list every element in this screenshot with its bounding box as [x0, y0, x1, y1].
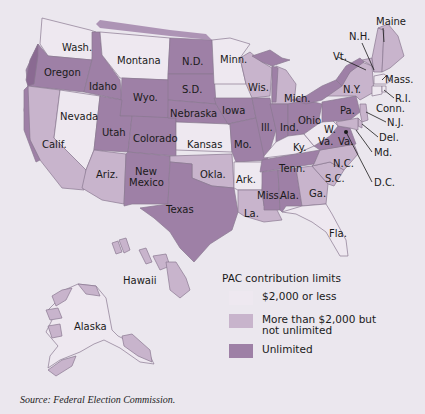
state-washington — [40, 18, 96, 60]
label-mo: Mo. — [234, 139, 252, 150]
label-ill: Ill. — [261, 122, 273, 133]
label-conn: Conn. — [376, 103, 405, 114]
label-ga: Ga. — [309, 188, 326, 199]
label-ariz: Ariz. — [96, 169, 118, 180]
legend-label-mid: More than $2,000 but not unlimited — [262, 314, 392, 336]
source-note: Source: Federal Election Commission. — [20, 394, 175, 405]
label-iowa: Iowa — [222, 105, 245, 116]
label-wva-1: W. — [324, 124, 336, 135]
label-maine: Maine — [376, 16, 406, 27]
legend-swatch-mid — [229, 314, 253, 328]
label-la: La. — [244, 208, 259, 219]
label-nc: N.C. — [333, 158, 354, 169]
label-tenn: Tenn. — [278, 163, 305, 174]
label-ala: Ala. — [280, 190, 299, 201]
label-hawaii: Hawaii — [123, 275, 157, 286]
label-ohio: Ohio — [298, 115, 321, 126]
label-del: Del. — [379, 132, 399, 143]
label-pa: Pa. — [340, 105, 355, 116]
label-ny: N.Y. — [343, 84, 361, 95]
label-sd: S.D. — [182, 84, 202, 95]
label-ark: Ark. — [236, 174, 256, 185]
label-ky: Ky. — [293, 142, 307, 153]
state-new-jersey — [360, 104, 368, 122]
legend-swatch-low — [229, 291, 253, 305]
label-new-mexico-2: Mexico — [129, 177, 164, 188]
label-utah: Utah — [102, 127, 126, 138]
label-kansas: Kansas — [187, 139, 222, 150]
label-new-mexico-1: New — [135, 166, 157, 177]
legend-swatch-unlimited — [229, 344, 253, 358]
label-nd: N.D. — [182, 56, 204, 67]
legend-item-low: $2,000 or less — [229, 291, 336, 305]
label-nj: N.J. — [387, 117, 404, 128]
label-nh: N.H. — [349, 31, 370, 42]
label-montana: Montana — [117, 55, 161, 66]
label-calif: Calif. — [42, 139, 67, 150]
label-oregon: Oregon — [44, 67, 81, 78]
label-minn: Minn. — [220, 54, 247, 65]
label-sc: S.C. — [325, 173, 345, 184]
label-alaska: Alaska — [74, 321, 107, 332]
label-nevada: Nevada — [60, 111, 98, 122]
label-fla: Fla. — [329, 228, 347, 239]
state-hawaii — [112, 238, 190, 298]
label-wva-2: Va. — [318, 136, 333, 147]
legend-title: PAC contribution limits — [222, 272, 341, 284]
label-mich: Mich. — [284, 93, 310, 104]
label-ind: Ind. — [280, 122, 299, 133]
label-nebraska: Nebraska — [170, 108, 217, 119]
label-mass: Mass. — [385, 74, 413, 85]
label-texas: Texas — [165, 204, 194, 215]
label-miss: Miss. — [257, 190, 282, 201]
legend-item-unlimited: Unlimited — [229, 344, 313, 358]
label-wash: Wash. — [62, 42, 92, 53]
state-connecticut — [372, 86, 382, 96]
label-idaho: Idaho — [89, 81, 117, 92]
us-map: Wash. Oregon Idaho Montana N.D. Minn. Wy… — [0, 0, 425, 414]
label-wis: Wis. — [248, 82, 269, 93]
legend-label-unlimited: Unlimited — [262, 344, 313, 355]
legend-item-mid: More than $2,000 but not unlimited — [229, 314, 392, 336]
label-colorado: Colorado — [133, 133, 178, 144]
label-wyo: Wyo. — [133, 92, 158, 103]
label-okla: Okla. — [200, 169, 226, 180]
label-md: Md. — [374, 147, 392, 158]
legend-label-low: $2,000 or less — [262, 291, 336, 302]
label-dc: D.C. — [374, 177, 395, 188]
